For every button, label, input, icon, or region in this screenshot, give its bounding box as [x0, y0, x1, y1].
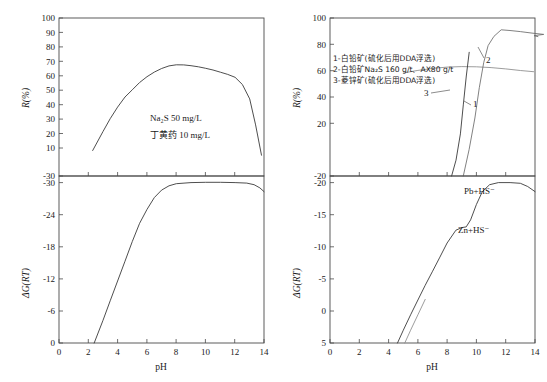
curve-deltaG-left [94, 182, 264, 343]
ytick-label: 60 [317, 66, 327, 76]
ytick-label: -30 [43, 178, 55, 188]
ytick-label: -5 [319, 274, 327, 284]
curve-label-1: 1 [473, 99, 478, 109]
legend-item-1: 1-白铅矿(硫化后用DDA浮选) [333, 53, 435, 63]
ytick-label: 20 [46, 129, 56, 139]
annotation-reagent-1: Na₂S 50 mg/L [150, 113, 202, 123]
panel-bottom-right-xlabel: pH [426, 362, 438, 372]
ytick-label: -18 [43, 242, 55, 252]
ytick-label: 100 [42, 13, 56, 23]
ytick-label: -24 [43, 210, 55, 220]
ytick-label: 40 [46, 100, 56, 110]
curve-label-pb-hs: Pb+HS⁻ [464, 186, 495, 196]
ytick-label: 5 [322, 338, 327, 348]
curve-label-2: 2 [486, 55, 491, 65]
xtick-label: 6 [416, 347, 421, 357]
ytick-label: -10 [314, 242, 326, 252]
ytick-label: 0 [51, 338, 56, 348]
ytick-label: 80 [46, 42, 56, 52]
leader-3 [431, 90, 450, 93]
panel-top-left-xticks [88, 172, 234, 176]
xtick-label: 12 [501, 347, 510, 357]
xtick-label: 2 [86, 347, 91, 357]
annotation-reagent-2: 丁黄药 10 mg/L [150, 129, 210, 140]
xtick-label: 4 [115, 347, 120, 357]
ytick-label: 80 [317, 40, 327, 50]
xtick-label: 4 [386, 347, 391, 357]
panel-top-left: 100 90 80 70 60 50 40 30 20 10 -30 [21, 13, 264, 181]
figure-svg: 100 90 80 70 60 50 40 30 20 10 -30 [0, 0, 547, 382]
ytick-label: 70 [46, 57, 56, 67]
ytick-label: 60 [46, 71, 56, 81]
ytick-label: 50 [46, 85, 56, 95]
xtick-label: 6 [145, 347, 150, 357]
panel-top-right-ylabel: R(%) [292, 88, 303, 109]
panel-bottom-right: -20 -15 -10 -5 0 5 0 2 4 6 8 [292, 176, 540, 372]
legend-item-2: 2-白铅矿Na₂S 160 g/t、AX80 g/t [333, 64, 453, 74]
panel-top-right-legend: 1-白铅矿(硫化后用DDA浮选) 2-白铅矿Na₂S 160 g/t、AX80 … [333, 53, 453, 85]
xtick-label: 8 [445, 347, 450, 357]
panel-bottom-left-yaxis: -30 -24 -18 -12 -6 0 [43, 178, 63, 348]
xtick-label: 12 [230, 347, 239, 357]
figure-container: 100 90 80 70 60 50 40 30 20 10 -30 [0, 0, 547, 382]
panel-bottom-right-yaxis: -20 -15 -10 -5 0 5 [314, 178, 334, 348]
curve-pb-hs [398, 183, 536, 343]
xtick-label: 10 [201, 347, 211, 357]
panel-bottom-left-frame [59, 176, 264, 343]
legend-item-3: 3-菱锌矿(硫化后用DDA浮选) [333, 75, 435, 85]
ytick-label: 0 [322, 306, 327, 316]
ytick-label: 40 [317, 92, 327, 102]
xtick-label: 8 [174, 347, 179, 357]
panel-top-right-yaxis: 100 80 60 40 20 -20 [313, 13, 335, 181]
ytick-label: 30 [46, 114, 56, 124]
panel-bottom-right-frame [330, 176, 535, 343]
ytick-label: -20 [314, 178, 326, 188]
xtick-label: 14 [260, 347, 270, 357]
curve-label-3: 3 [424, 88, 429, 98]
panel-bottom-left-xlabel: pH [155, 362, 167, 372]
ytick-label: 100 [313, 13, 327, 23]
xtick-label: 0 [328, 347, 333, 357]
panel-bottom-left-xaxis: 0 2 4 6 8 10 12 14 [57, 339, 269, 357]
curve-cerussite-1 [452, 52, 470, 176]
xtick-label: 0 [57, 347, 62, 357]
panel-top-right: 100 80 60 40 20 -20 R(%) [292, 13, 544, 181]
ytick-label: -12 [43, 274, 55, 284]
leader-2 [478, 47, 484, 58]
xtick-label: 10 [472, 347, 482, 357]
ytick-label: 90 [46, 28, 56, 38]
panel-top-left-frame [59, 18, 264, 176]
ytick-label: -15 [314, 210, 326, 220]
panel-bottom-left-ylabel: ΔG(RT) [21, 268, 32, 299]
panel-top-left-ylabel: R(%) [21, 88, 32, 109]
curve-label-zn-hs: Zn+HS⁻ [458, 225, 490, 235]
curve-recovery-left [93, 65, 262, 155]
panel-top-right-frame [330, 18, 535, 176]
xtick-label: 14 [531, 347, 541, 357]
ytick-label: 20 [317, 119, 327, 129]
ytick-label: -6 [48, 306, 56, 316]
leader-1 [464, 101, 471, 105]
panel-bottom-left: -30 -24 -18 -12 -6 0 0 2 4 6 8 [21, 176, 269, 372]
xtick-label: 2 [357, 347, 362, 357]
panel-top-left-yaxis: 100 90 80 70 60 50 40 30 20 10 -30 [42, 13, 64, 181]
ytick-label: 10 [46, 143, 56, 153]
panel-top-right-xticks [359, 172, 505, 176]
panel-bottom-right-ylabel: ΔG(RT) [292, 268, 303, 299]
panel-bottom-right-xaxis: 0 2 4 6 8 10 12 14 [328, 339, 540, 357]
